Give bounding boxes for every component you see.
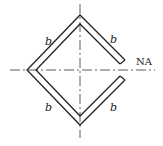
side-label-lower-right: b [110, 101, 117, 114]
side-label-upper-left: b [45, 35, 52, 48]
upper-arm-end-cap [120, 60, 125, 64]
cross-section-diagram: b b b b NA [0, 0, 163, 146]
side-label-lower-left: b [45, 101, 52, 114]
side-label-upper-right: b [110, 33, 117, 46]
lower-arm-end-cap [120, 76, 125, 80]
neutral-axis-label: NA [136, 56, 153, 67]
